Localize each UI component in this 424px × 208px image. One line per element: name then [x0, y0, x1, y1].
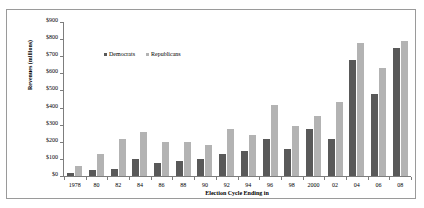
x-axis-tick-mark [129, 177, 130, 180]
bar-republicans-2000 [314, 116, 321, 176]
rep-square-marker-icon [146, 53, 149, 56]
y-axis-tick-mark [60, 142, 63, 143]
y-axis-tick-mark [60, 159, 63, 160]
bar-group [238, 22, 260, 176]
bar-group [216, 22, 238, 176]
bar-republicans-08 [401, 41, 408, 176]
x-axis-tick-mark [151, 177, 152, 180]
y-axis-tick-mark [60, 56, 63, 57]
bars-layer [64, 22, 411, 176]
bar-republicans-1978 [75, 166, 82, 176]
plot-inner: $900$800$700$600$500$400$300$200$100$0 1… [63, 22, 411, 177]
x-axis-tick [172, 177, 194, 181]
figure-frame: Revenues (millions) $900$800$700$600$500… [6, 9, 416, 199]
legend-entry-democrats: Democrats [104, 51, 135, 57]
legend-label: Republicans [151, 51, 181, 57]
bar-republicans-02 [336, 102, 343, 176]
y-axis-tick-label: $300 [46, 120, 58, 126]
bar-democrats-96 [263, 139, 270, 176]
bar-democrats-1978 [67, 173, 74, 176]
x-axis-tick [238, 177, 260, 181]
bar-democrats-04 [349, 60, 356, 176]
bar-group [346, 22, 368, 176]
x-axis-tick [368, 177, 390, 181]
bar-democrats-82 [111, 169, 118, 176]
bar-democrats-2000 [306, 129, 313, 176]
x-axis-tick [303, 177, 325, 181]
y-axis-tick-label: $800 [46, 34, 58, 40]
y-axis-tick-mark [60, 108, 63, 109]
x-axis-tick-mark [216, 177, 217, 180]
y-axis-tick-mark [60, 39, 63, 40]
x-axis-tick [216, 177, 238, 181]
y-axis-tick-mark [60, 125, 63, 126]
x-axis-tick-mark [324, 177, 325, 180]
bar-group [281, 22, 303, 176]
y-axis-tick-label: $200 [46, 137, 58, 143]
x-axis-tick [86, 177, 108, 181]
bar-republicans-06 [379, 68, 386, 176]
y-axis-tick-label: $500 [46, 85, 58, 91]
x-axis-tick [281, 177, 303, 181]
x-axis-tick [64, 177, 86, 181]
plot-area: $900$800$700$600$500$400$300$200$100$0 1… [63, 22, 411, 177]
chart-legend: DemocratsRepublicans [104, 51, 181, 57]
x-axis-tick-mark [346, 177, 347, 180]
bar-republicans-92 [227, 129, 234, 176]
bar-democrats-90 [197, 159, 204, 176]
y-axis-tick-mark [60, 90, 63, 91]
x-axis-tick-mark [107, 177, 108, 180]
bar-group [259, 22, 281, 176]
bar-republicans-04 [357, 43, 364, 176]
bar-democrats-98 [284, 149, 291, 176]
bar-democrats-84 [132, 159, 139, 176]
y-axis-tick-mark [60, 73, 63, 74]
bar-group [368, 22, 390, 176]
bar-republicans-94 [249, 135, 256, 176]
y-axis-tick-label: $400 [46, 103, 58, 109]
bar-democrats-06 [371, 94, 378, 176]
bar-group [129, 22, 151, 176]
bar-democrats-92 [219, 154, 226, 176]
x-axis-title: Election Cycle Ending in [63, 190, 411, 196]
x-axis-tick-mark [194, 177, 195, 180]
bar-republicans-82 [119, 139, 126, 176]
bar-republicans-84 [140, 132, 147, 176]
bar-republicans-88 [184, 142, 191, 176]
bar-republicans-96 [271, 105, 278, 176]
x-axis-tick-mark [281, 177, 282, 180]
y-axis-title: Revenues (millions) [27, 0, 33, 135]
y-axis-tick-label: $600 [46, 68, 58, 74]
bar-group [64, 22, 86, 176]
y-axis-tick-mark [60, 176, 63, 177]
y-axis-tick-label: $700 [46, 51, 58, 57]
bar-group [172, 22, 194, 176]
bar-democrats-94 [241, 151, 248, 176]
x-axis-tick-mark [303, 177, 304, 180]
x-axis-tick-mark [86, 177, 87, 180]
x-axis-tick-mark [389, 177, 390, 180]
x-axis-tick [389, 177, 411, 181]
x-axis-tick [259, 177, 281, 181]
x-axis-tick-mark [259, 177, 260, 180]
bar-group [86, 22, 108, 176]
x-axis-tick [194, 177, 216, 181]
bar-democrats-86 [154, 163, 161, 176]
bar-democrats-88 [176, 161, 183, 176]
bar-group [151, 22, 173, 176]
bar-democrats-02 [328, 139, 335, 176]
dem-square-marker-icon [104, 53, 107, 56]
x-axis-tick [324, 177, 346, 181]
x-axis-tick [107, 177, 129, 181]
x-axis-tick [151, 177, 173, 181]
x-axis-ticks [64, 177, 411, 181]
x-axis-tick-mark [238, 177, 239, 180]
legend-label: Democrats [109, 51, 135, 57]
bar-democrats-08 [393, 48, 400, 176]
x-axis-tick [129, 177, 151, 181]
x-axis-tick-mark [172, 177, 173, 180]
bar-republicans-98 [292, 126, 299, 176]
bar-republicans-80 [97, 154, 104, 176]
chart-screenshot: Revenues (millions) $900$800$700$600$500… [0, 0, 424, 208]
bar-group [194, 22, 216, 176]
